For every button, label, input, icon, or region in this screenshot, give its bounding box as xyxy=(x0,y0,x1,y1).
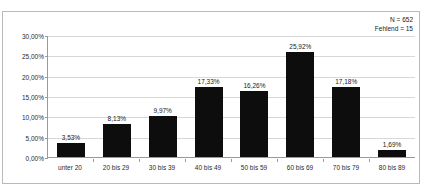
bar-value-label: 1,69% xyxy=(383,141,401,148)
bar-value-label: 3,53% xyxy=(62,134,80,141)
y-axis-tick-label: 10,00% xyxy=(22,114,44,121)
x-axis-tick-mark xyxy=(139,159,140,162)
bars-layer: 3,53%8,13%9,97%17,33%16,26%25,92%17,18%1… xyxy=(48,36,415,157)
y-axis-tick-label: 0,00% xyxy=(26,155,44,162)
n-label: N = 652 xyxy=(375,15,413,24)
bar-slot: 9,97% xyxy=(140,36,186,157)
x-axis-tick-mark xyxy=(277,159,278,162)
x-axis-tick-label: 30 bis 39 xyxy=(149,164,175,171)
plot-wrapper: 0,00%5,00%10,00%15,00%20,00%25,00%30,00%… xyxy=(3,36,421,184)
bar[interactable] xyxy=(57,143,85,157)
x-axis-tick-mark xyxy=(93,159,94,162)
bar-value-label: 17,33% xyxy=(198,78,220,85)
x-axis-tick-mark xyxy=(323,159,324,162)
x-axis-labels: unter 2020 bis 2930 bis 3940 bis 4950 bi… xyxy=(47,164,415,178)
bar-value-label: 17,18% xyxy=(335,78,357,85)
y-axis-tick-label: 30,00% xyxy=(22,33,44,40)
x-axis-tick-label: 60 bis 69 xyxy=(287,164,313,171)
bar[interactable] xyxy=(149,116,177,157)
plot-area: 3,53%8,13%9,97%17,33%16,26%25,92%17,18%1… xyxy=(47,36,415,158)
y-axis-tick-mark xyxy=(45,158,48,159)
bar-value-label: 8,13% xyxy=(108,115,126,122)
y-axis-tick-label: 20,00% xyxy=(22,73,44,80)
clipped-header-text-row xyxy=(0,0,424,11)
bar[interactable] xyxy=(195,87,223,157)
x-axis-tick-label: 70 bis 79 xyxy=(333,164,359,171)
bar[interactable] xyxy=(378,150,406,157)
y-axis-tick-label: 15,00% xyxy=(22,94,44,101)
x-axis-tick-mark xyxy=(231,159,232,162)
bar-slot: 3,53% xyxy=(48,36,94,157)
x-axis-tick-label: 40 bis 49 xyxy=(195,164,221,171)
missing-label: Fehlend = 15 xyxy=(375,24,413,33)
bar-value-label: 25,92% xyxy=(289,43,311,50)
bar-value-label: 16,26% xyxy=(243,82,265,89)
x-axis-tick-label: 20 bis 29 xyxy=(103,164,129,171)
x-axis-tick-label: unter 20 xyxy=(58,164,82,171)
x-axis-tick-label: 80 bis 89 xyxy=(379,164,405,171)
bar-slot: 8,13% xyxy=(94,36,140,157)
bar-slot: 25,92% xyxy=(277,36,323,157)
y-axis-tick-label: 5,00% xyxy=(26,134,44,141)
bar-slot: 1,69% xyxy=(369,36,415,157)
chart-screenshot: N = 652 Fehlend = 15 0,00%5,00%10,00%15,… xyxy=(0,0,424,188)
bar-slot: 17,33% xyxy=(186,36,232,157)
bar[interactable] xyxy=(286,52,314,157)
bar[interactable] xyxy=(103,124,131,157)
bar[interactable] xyxy=(332,87,360,157)
bar-slot: 17,18% xyxy=(323,36,369,157)
x-axis-tick-mark xyxy=(185,159,186,162)
chart-panel: N = 652 Fehlend = 15 0,00%5,00%10,00%15,… xyxy=(2,11,420,184)
sample-size-annotation: N = 652 Fehlend = 15 xyxy=(375,15,413,33)
bar-value-label: 9,97% xyxy=(153,107,171,114)
x-axis-tick-mark xyxy=(369,159,370,162)
x-axis-tick-label: 50 bis 59 xyxy=(241,164,267,171)
y-axis-tick-label: 25,00% xyxy=(22,53,44,60)
bar-slot: 16,26% xyxy=(232,36,278,157)
bar[interactable] xyxy=(240,91,268,157)
y-axis-labels: 0,00%5,00%10,00%15,00%20,00%25,00%30,00% xyxy=(3,36,47,158)
